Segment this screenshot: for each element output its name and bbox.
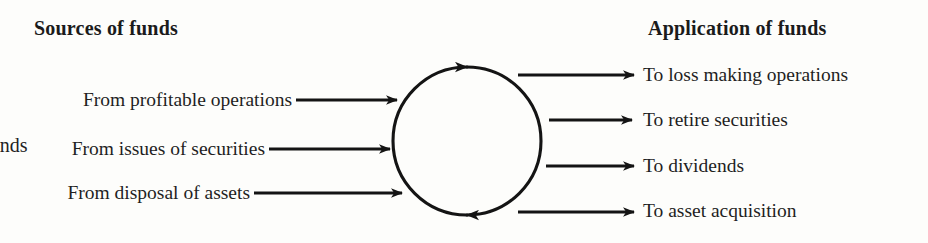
funds-cycle-circle — [393, 67, 541, 215]
diagram-vector-layer — [0, 0, 928, 243]
cycle-arc-left — [393, 67, 467, 215]
funds-flow-diagram: Sources of funds Application of funds Fr… — [0, 0, 928, 243]
cycle-arc-right — [467, 67, 541, 215]
outflow-arrows — [518, 75, 634, 212]
inflow-arrows — [254, 100, 402, 193]
